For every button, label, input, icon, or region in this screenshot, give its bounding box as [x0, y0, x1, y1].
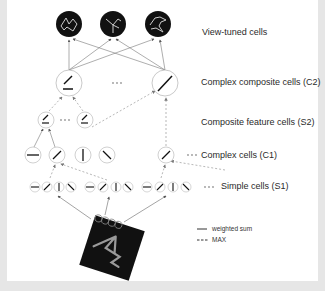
- max-connections: [49, 91, 225, 180]
- s1-group-1: [30, 182, 76, 192]
- c1-ellipsis: [187, 154, 197, 156]
- c1-cell-diagonal-135: [99, 147, 115, 163]
- legend-weighted-sum-label: weighted sum: [212, 225, 252, 232]
- view-tuned-cell-2: [100, 11, 126, 37]
- view-tuned-cell-1: [56, 11, 82, 37]
- hierarchical-model-diagram: [0, 0, 325, 291]
- c1-to-s2-connections: [34, 129, 55, 147]
- s2-cell-2: [77, 112, 93, 128]
- c2-ellipsis: [112, 82, 122, 84]
- label-s1-cells: Simple cells (S1): [221, 181, 289, 191]
- label-c2-cells: Complex composite cells (C2): [201, 77, 321, 87]
- label-s2-cells: Composite feature cells (S2): [201, 117, 315, 127]
- view-tuned-cell-3: [145, 11, 171, 37]
- s1-ellipsis: [204, 186, 214, 188]
- c1-cell-diagonal-45: [49, 147, 65, 163]
- c2-cell-1: [56, 70, 82, 96]
- s1-group-2: [85, 182, 133, 192]
- c1-cell-horizontal: [25, 147, 41, 163]
- c1-cell-vertical: [75, 147, 91, 163]
- s2-ellipsis: [60, 119, 70, 121]
- c2-cell-2: [152, 70, 178, 96]
- c1-cell-diagonal-45-b: [158, 147, 174, 163]
- s2-cell-1: [38, 112, 54, 128]
- legend-max-label: MAX: [212, 236, 226, 243]
- c2-to-view-tuned-connections: [69, 39, 165, 70]
- label-c1-cells: Complex cells (C1): [201, 150, 277, 160]
- s1-group-3: [142, 182, 191, 192]
- label-view-tuned-cells: View-tuned cells: [202, 27, 267, 37]
- legend: [197, 229, 208, 240]
- input-to-s1-connections: [58, 196, 166, 222]
- input-image: [79, 214, 145, 281]
